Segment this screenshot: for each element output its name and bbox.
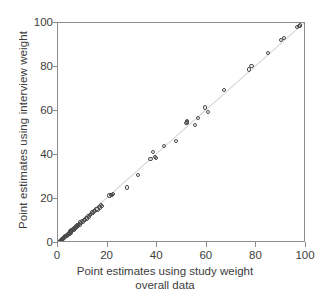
x-axis-title-line2: overall data: [30, 278, 300, 292]
x-tick-label: 0: [37, 249, 77, 261]
data-point: [196, 116, 200, 120]
data-point: [125, 185, 129, 189]
x-tick-label: 20: [87, 249, 127, 261]
x-tick-label: 80: [235, 249, 275, 261]
x-tick-label: 40: [136, 249, 176, 261]
data-point: [100, 204, 104, 208]
x-tick-mark: [305, 242, 306, 247]
data-point: [111, 192, 115, 196]
plot-area: [57, 22, 305, 242]
data-point: [203, 105, 207, 109]
x-tick-label: 60: [186, 249, 226, 261]
data-point: [151, 150, 155, 154]
x-tick-mark: [57, 242, 58, 247]
data-point: [193, 123, 197, 127]
data-point: [154, 156, 158, 160]
y-tick-label: 80: [19, 61, 53, 71]
data-point: [249, 64, 253, 68]
data-point: [136, 173, 140, 177]
x-tick-mark: [156, 242, 157, 247]
x-tick-mark: [255, 242, 256, 247]
x-axis-tick-labels: 020406080100: [57, 249, 305, 263]
data-point: [222, 88, 226, 92]
y-tick-label: 20: [19, 193, 53, 203]
y-tick-label: 40: [19, 149, 53, 159]
data-point: [206, 110, 210, 114]
data-point: [174, 139, 178, 143]
data-point: [298, 23, 302, 27]
data-point: [185, 119, 189, 123]
scatter-plot-figure: Point estimates using interview weight 0…: [0, 0, 322, 299]
data-point: [266, 51, 270, 55]
x-tick-mark: [107, 242, 108, 247]
y-tick-label: 100: [19, 17, 53, 27]
y-tick-label: 0: [19, 237, 53, 247]
data-point: [282, 36, 286, 40]
x-axis-title-line1: Point estimates using study weight: [30, 264, 300, 278]
data-point: [148, 157, 152, 161]
x-tick-mark: [206, 242, 207, 247]
y-tick-label: 60: [19, 105, 53, 115]
x-axis-title: Point estimates using study weight overa…: [30, 264, 300, 292]
data-point: [162, 144, 166, 148]
x-tick-label: 100: [285, 249, 322, 261]
